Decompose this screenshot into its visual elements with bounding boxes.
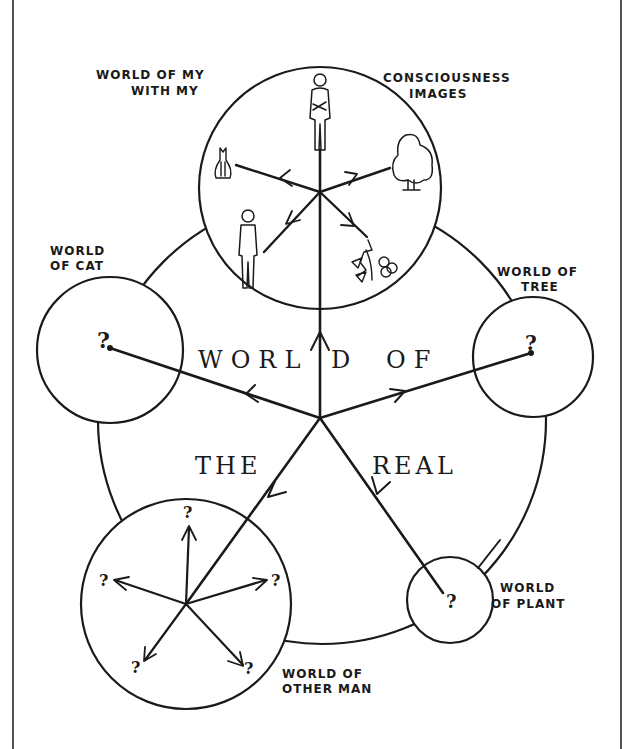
plant-question-mark: ? xyxy=(446,591,457,612)
label-consciousness-line1: CONSCIOUSNESS xyxy=(383,71,511,85)
other-man-question-mark-right: ? xyxy=(271,571,280,590)
label-my-world-line1: WORLD OF MY xyxy=(96,68,205,82)
label-cat-line1: WORLD xyxy=(50,244,105,258)
tree-world-circle xyxy=(473,297,593,417)
label-plant-line1: WORLD xyxy=(500,581,555,595)
other-man-question-mark-bottom-right: ? xyxy=(244,659,253,678)
label-plant-line2: OF PLANT xyxy=(491,597,566,611)
other-man-question-mark-top: ? xyxy=(183,503,192,522)
central-text-d: D xyxy=(331,346,358,374)
central-text-of: OF xyxy=(386,346,438,374)
label-consciousness-line2: IMAGES xyxy=(409,87,467,101)
world-of-the-real-diagram: ? ? ? ? ? ? ? ? WORL D OF THE REAL WORLD… xyxy=(0,0,634,749)
label-other-man-line2: OTHER MAN xyxy=(282,682,372,696)
label-tree-line1: WORLD OF xyxy=(497,265,578,279)
cat-question-mark: ? xyxy=(97,327,110,353)
label-my-world-line2: WITH MY xyxy=(131,84,199,98)
other-man-question-mark-left: ? xyxy=(99,571,108,590)
label-tree-line2: TREE xyxy=(521,280,559,294)
tree-question-mark: ? xyxy=(525,331,537,355)
central-text-the: THE xyxy=(195,452,261,480)
central-text-real: REAL xyxy=(372,452,457,480)
other-man-question-mark-bottom-left: ? xyxy=(131,658,140,677)
label-cat-line2: OF CAT xyxy=(50,259,104,273)
label-other-man-line1: WORLD OF xyxy=(282,667,363,681)
plant-connector xyxy=(478,540,500,568)
central-text-world: WORL xyxy=(198,346,308,374)
